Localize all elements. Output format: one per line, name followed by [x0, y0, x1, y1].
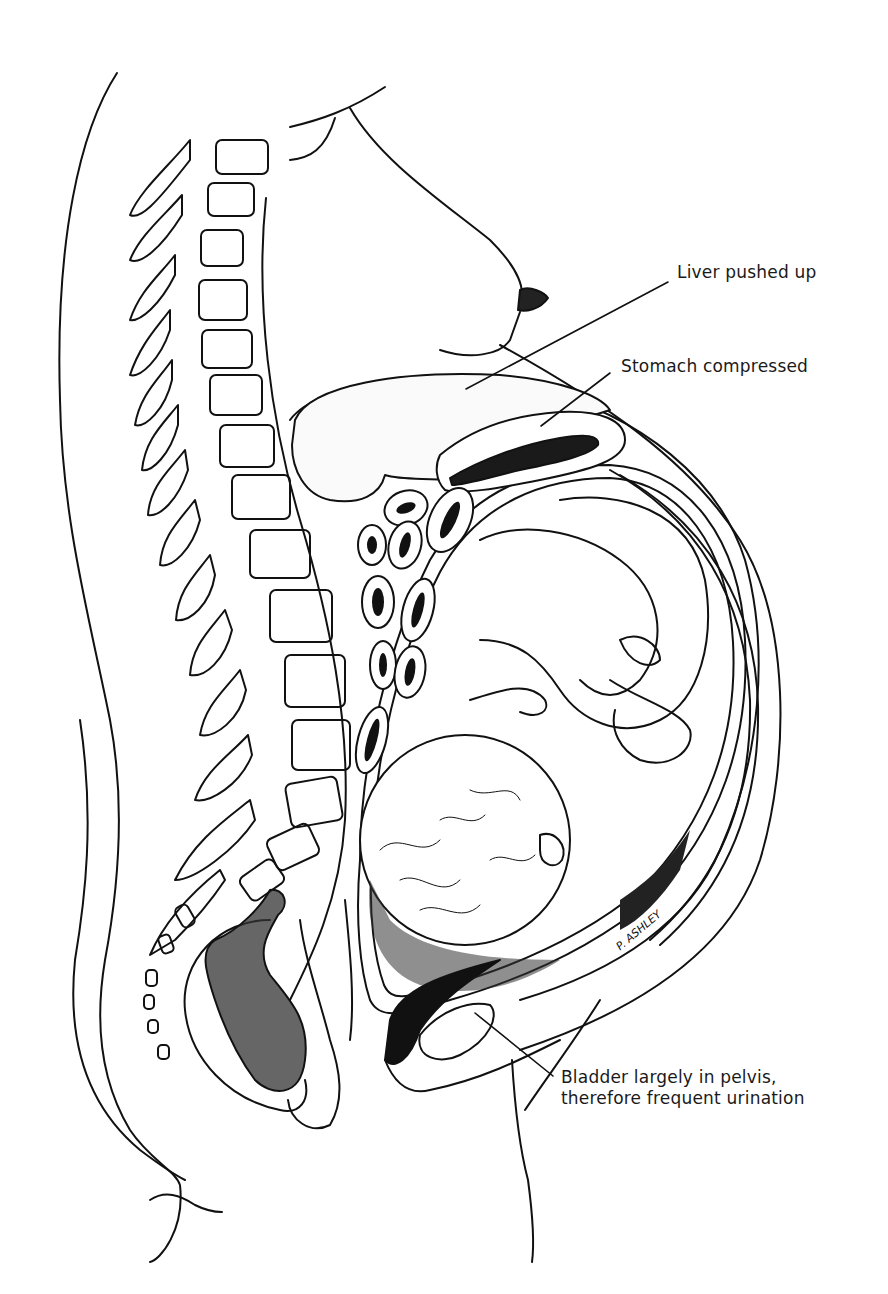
- breast-outline: [350, 108, 522, 300]
- fetal-head: [360, 735, 570, 945]
- rectum-content: [206, 890, 306, 1091]
- fetus-leg: [480, 530, 657, 695]
- chest-outline: [290, 87, 385, 127]
- thigh-outline: [512, 1060, 533, 1262]
- spinous-processes: [130, 140, 255, 880]
- bladder-leader-line: [475, 1013, 553, 1076]
- back-outline: [59, 73, 180, 1262]
- vertebrae: [199, 140, 350, 903]
- label-bladder-line2: therefore frequent urination: [561, 1088, 805, 1108]
- fetus-arm: [470, 688, 546, 714]
- label-stomach: Stomach compressed: [621, 356, 808, 376]
- label-bladder-line1: Bladder largely in pelvis,: [561, 1067, 777, 1087]
- label-liver: Liver pushed up: [677, 262, 817, 282]
- anatomical-illustration: Liver pushed up Stomach compressed Bladd…: [0, 0, 888, 1294]
- fetus-back: [480, 498, 708, 728]
- spine-anterior-line: [262, 198, 345, 1000]
